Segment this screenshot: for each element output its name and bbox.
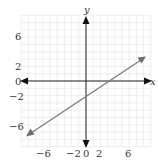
x-tick-label: 0 [83, 148, 89, 159]
x-axis-label: x [150, 76, 156, 87]
coordinate-plane: y x −6 −2 0 2 6 6 2 0 −2 −6 [0, 0, 158, 160]
y-axis-up-arrow-icon [83, 16, 90, 24]
y-tick-label: 6 [15, 31, 21, 42]
y-axis-label: y [83, 4, 90, 15]
y-tick-label: −2 [9, 91, 24, 102]
y-tick-label: 2 [15, 61, 21, 72]
x-tick-labels: −6 −2 0 2 6 [36, 148, 131, 159]
line-right-arrow-icon [138, 57, 147, 64]
y-axis [83, 16, 90, 148]
y-tick-label: −6 [9, 121, 24, 132]
x-tick-label: 6 [125, 148, 131, 159]
x-tick-label: −2 [66, 148, 81, 159]
x-tick-label: −6 [36, 148, 51, 159]
x-tick-label: 2 [96, 148, 102, 159]
line-left-arrow-icon [26, 129, 35, 137]
y-tick-label: 0 [15, 76, 21, 87]
